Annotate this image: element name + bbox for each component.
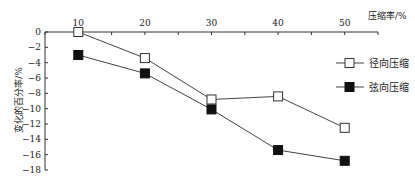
- line-chart: 10203040500−2−4−6−8−10−12−14−16−18 压缩率/%…: [0, 0, 415, 187]
- data-point-open-square: [140, 54, 149, 63]
- legend-marker-open-square: [345, 59, 354, 68]
- data-point-open-square: [340, 123, 349, 132]
- x-tick-label: 50: [339, 18, 351, 28]
- x-tick-label: 30: [206, 18, 218, 28]
- data-point-open-square: [74, 28, 83, 37]
- y-tick-label: −10: [22, 104, 41, 114]
- y-tick-label: −12: [22, 119, 41, 129]
- x-tick-label: 40: [272, 18, 284, 28]
- y-tick-label: −14: [22, 134, 41, 144]
- legend-label-tangential: 弦向压缩: [369, 81, 409, 93]
- x-axis-title: 压缩率/%: [368, 10, 407, 21]
- y-tick-label: −8: [28, 88, 42, 98]
- tick-labels: 10203040500−2−4−6−8−10−12−14−16−18: [22, 18, 351, 175]
- y-tick-label: −2: [28, 42, 41, 52]
- data-point-filled-square: [140, 69, 149, 78]
- legend-label-radial: 径向压缩: [369, 57, 409, 69]
- data-series: [74, 28, 349, 166]
- data-point-open-square: [207, 95, 216, 104]
- y-tick-label: −6: [28, 73, 42, 83]
- y-tick-label: 0: [35, 27, 41, 37]
- data-point-open-square: [274, 92, 283, 101]
- y-tick-label: −16: [22, 150, 41, 160]
- data-point-filled-square: [340, 156, 349, 165]
- y-axis-title: 变化的百分率/%: [13, 67, 24, 133]
- x-tick-label: 20: [139, 18, 151, 28]
- legend: 径向压缩 弦向压缩: [336, 57, 409, 93]
- y-tick-label: −18: [22, 165, 41, 175]
- data-point-filled-square: [74, 51, 83, 60]
- data-point-filled-square: [274, 146, 283, 155]
- y-tick-label: −4: [28, 58, 42, 68]
- x-tick-label: 10: [73, 18, 85, 28]
- legend-marker-filled-square: [345, 83, 354, 92]
- data-point-filled-square: [207, 105, 216, 114]
